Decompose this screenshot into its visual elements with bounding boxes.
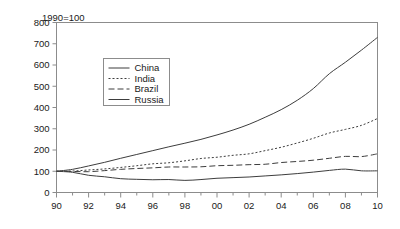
x-tick-label: 94 [115,200,126,211]
x-tick-label: 00 [212,200,223,211]
y-tick-label: 300 [34,123,50,134]
chart-background [0,0,400,229]
x-tick-label: 10 [372,200,383,211]
y-tick-label: 0 [44,187,49,198]
chart-canvas: 1990=100 0100200300400500600700800 90929… [0,0,400,229]
y-tick-label: 500 [34,81,50,92]
y-tick-label: 400 [34,102,50,113]
legend-label-brazil: Brazil [135,83,159,94]
y-tick-label: 200 [34,144,50,155]
y-axis-ticks: 0100200300400500600700800 [34,17,57,198]
y-tick-label: 100 [34,166,50,177]
x-tick-label: 02 [244,200,255,211]
x-tick-label: 08 [340,200,351,211]
y-tick-label: 600 [34,59,50,70]
x-tick-label: 04 [276,200,287,211]
x-tick-label: 92 [83,200,94,211]
x-tick-label: 06 [308,200,319,211]
line-chart: 1990=100 0100200300400500600700800 90929… [0,0,400,229]
chart-legend: ChinaIndiaBrazilRussia [104,59,170,106]
legend-label-india: India [135,73,156,84]
x-tick-label: 96 [148,200,159,211]
y-tick-label: 800 [34,17,50,28]
legend-label-russia: Russia [135,94,165,105]
y-tick-label: 700 [34,38,50,49]
x-tick-label: 90 [51,200,62,211]
legend-label-china: China [135,62,161,73]
x-tick-label: 98 [180,200,191,211]
